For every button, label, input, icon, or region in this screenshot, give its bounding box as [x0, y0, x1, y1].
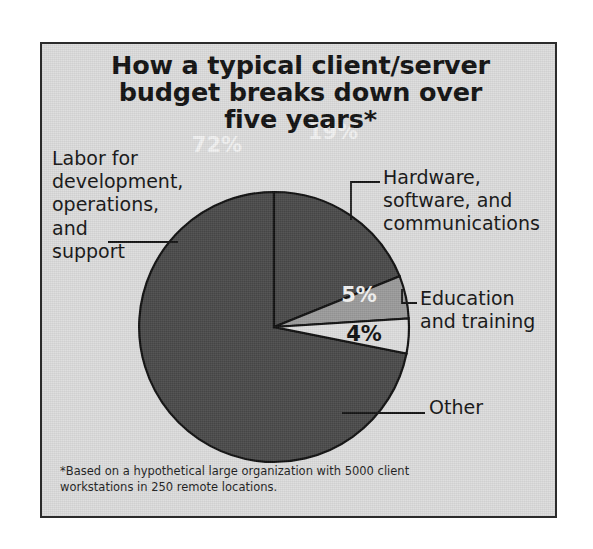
callout-labor-line-5: support	[52, 240, 183, 263]
callout-education-line-2: and training	[420, 310, 535, 333]
callout-education: Education and training	[420, 287, 535, 333]
page-title: How a typical client/server budget break…	[50, 52, 551, 133]
callout-other: Other	[429, 396, 483, 419]
callout-labor-line-2: development,	[52, 170, 183, 193]
callout-hardware-line-2: software, and	[383, 189, 540, 212]
callout-labor-line-4: and	[52, 217, 183, 240]
callout-labor-line-1: Labor for	[52, 147, 183, 170]
callout-labor: Labor for development, operations, and s…	[52, 147, 183, 263]
slice-value-other: 4%	[346, 322, 382, 346]
leader-line-hardware	[351, 182, 380, 220]
callout-other-line-1: Other	[429, 396, 483, 419]
callout-labor-line-3: operations,	[52, 193, 183, 216]
title-line-2: budget breaks down over	[50, 79, 551, 106]
callout-education-line-1: Education	[420, 287, 535, 310]
chart-panel: How a typical client/server budget break…	[40, 42, 557, 518]
footnote-line-2: workstations in 250 remote locations.	[60, 480, 460, 496]
chart-footnote: *Based on a hypothetical large organizat…	[60, 464, 460, 495]
figure-root: How a typical client/server budget break…	[0, 0, 593, 549]
slice-value-education: 5%	[341, 283, 377, 307]
callout-hardware: Hardware, software, and communications	[383, 166, 540, 236]
callout-hardware-line-1: Hardware,	[383, 166, 540, 189]
title-line-1: How a typical client/server	[50, 52, 551, 79]
slice-value-labor: 72%	[192, 133, 242, 157]
callout-hardware-line-3: communications	[383, 212, 540, 235]
footnote-line-1: *Based on a hypothetical large organizat…	[60, 464, 460, 480]
title-line-3: five years*	[50, 106, 551, 133]
